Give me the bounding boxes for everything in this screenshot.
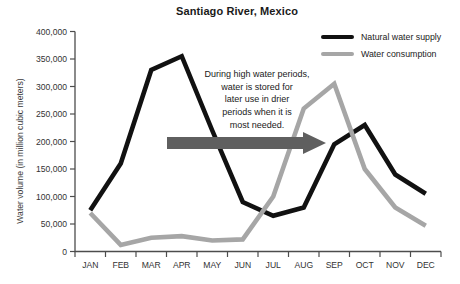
- y-tick-label: 100,000: [36, 192, 67, 202]
- x-tick-label: DEC: [417, 260, 435, 270]
- x-tick-label: NOV: [386, 260, 405, 270]
- y-tick-label: 350,000: [36, 54, 67, 64]
- x-tick-label: MAR: [142, 260, 161, 270]
- x-tick-label: JAN: [82, 260, 98, 270]
- storage-arrow-icon: [167, 132, 326, 154]
- y-tick-label: 400,000: [36, 27, 67, 37]
- x-tick-label: APR: [173, 260, 191, 270]
- y-tick-label: 0: [62, 247, 67, 257]
- x-tick-label: SEP: [326, 260, 343, 270]
- x-tick-label: OCT: [356, 260, 375, 270]
- y-tick-label: 150,000: [36, 164, 67, 174]
- y-tick-label: 300,000: [36, 82, 67, 92]
- x-tick-label: JUN: [234, 260, 251, 270]
- chart-plot: 050,000100,000150,000200,000250,000300,0…: [0, 0, 460, 284]
- y-tick-label: 250,000: [36, 109, 67, 119]
- x-tick-label: JUL: [266, 260, 282, 270]
- y-tick-label: 50,000: [41, 219, 68, 229]
- x-tick-label: AUG: [294, 260, 313, 270]
- series-line-natural-water-supply: [90, 56, 426, 216]
- y-tick-label: 200,000: [36, 137, 67, 147]
- x-tick-label: MAY: [203, 260, 221, 270]
- x-tick-label: FEB: [112, 260, 129, 270]
